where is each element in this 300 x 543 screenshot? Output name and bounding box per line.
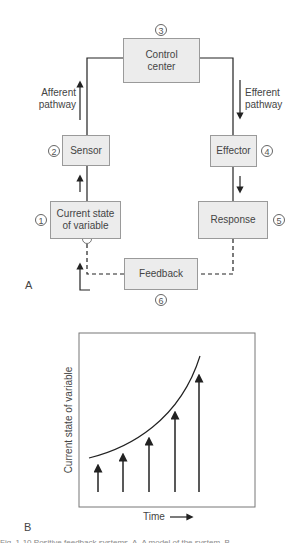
current-state-line2: of variable: [57, 220, 115, 232]
response-box: Response: [198, 201, 268, 239]
panel-b-label: B: [24, 521, 31, 533]
y-axis-label: Current state of variable: [63, 365, 75, 475]
sensor-box: Sensor: [62, 135, 110, 166]
efferent-line2: pathway: [245, 99, 300, 111]
efferent-label: Efferent pathway: [245, 87, 300, 111]
effector-box: Effector: [210, 135, 257, 167]
control-center-label-line1: Control: [145, 49, 177, 61]
step-number-5: 5: [273, 214, 285, 226]
step-number-1: 1: [35, 214, 47, 226]
feedback-box: Feedback: [124, 258, 198, 290]
control-center-box: Control center: [123, 38, 200, 83]
control-center-label-line2: center: [145, 61, 177, 73]
panel-a-label: A: [25, 279, 32, 291]
step-number-3: 3: [155, 24, 167, 36]
current-state-box: Current state of variable: [50, 201, 121, 239]
afferent-line2: pathway: [20, 99, 76, 111]
step-number-2: 2: [48, 145, 60, 157]
step-number-4: 4: [261, 145, 273, 157]
x-axis-label: Time: [143, 511, 165, 523]
current-state-line1: Current state: [57, 208, 115, 220]
afferent-label: Afferent pathway: [20, 87, 76, 111]
efferent-line1: Efferent: [245, 87, 300, 99]
figure-caption: Fig. 1-10 Positive feedback systems. A, …: [0, 538, 300, 543]
afferent-line1: Afferent: [20, 87, 76, 99]
step-number-6: 6: [155, 294, 167, 306]
